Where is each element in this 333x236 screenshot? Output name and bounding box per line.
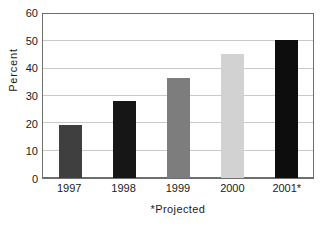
x-tick-label: 1997 bbox=[42, 182, 96, 194]
bar-series bbox=[43, 14, 313, 178]
bar bbox=[113, 101, 136, 178]
bar bbox=[59, 125, 82, 178]
x-tick-label: 2000 bbox=[205, 182, 259, 194]
y-tick-label: 10 bbox=[14, 145, 38, 157]
y-tick-label: 30 bbox=[14, 90, 38, 102]
y-axis-tick-labels: 0102030405060 bbox=[14, 13, 38, 179]
bar-slot bbox=[151, 14, 205, 178]
bar bbox=[275, 40, 298, 178]
x-axis-label-footnote: *Projected bbox=[42, 203, 314, 215]
x-tick-label: 2001* bbox=[260, 182, 314, 194]
y-tick-label: 20 bbox=[14, 118, 38, 130]
bar-slot bbox=[97, 14, 151, 178]
plot-area bbox=[42, 13, 314, 179]
x-axis-tick-labels: 19971998199920002001* bbox=[42, 182, 314, 194]
y-tick-label: 60 bbox=[14, 7, 38, 19]
bar-slot bbox=[43, 14, 97, 178]
x-tick-label: 1999 bbox=[151, 182, 205, 194]
bar-chart-figure: Percent 0102030405060 199719981999200020… bbox=[0, 0, 333, 236]
bar-slot bbox=[259, 14, 313, 178]
bar bbox=[167, 78, 190, 178]
bar-slot bbox=[205, 14, 259, 178]
y-tick-label: 40 bbox=[14, 62, 38, 74]
bar bbox=[221, 54, 244, 178]
y-tick-label: 50 bbox=[14, 35, 38, 47]
cropped-title-remnant bbox=[0, 0, 333, 4]
x-tick-label: 1998 bbox=[96, 182, 150, 194]
y-tick-label: 0 bbox=[14, 173, 38, 185]
